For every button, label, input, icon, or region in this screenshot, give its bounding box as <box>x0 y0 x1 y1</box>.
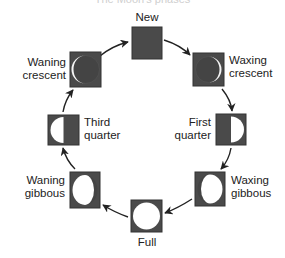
label-line: quarter <box>160 129 211 142</box>
arrow-third-quarter-to-waning-crescent <box>63 90 73 112</box>
label-line: Waxing <box>229 54 272 67</box>
label-line: gibbous <box>231 187 271 200</box>
waning-crescent-moon-icon <box>72 56 100 84</box>
label-line: Waxing <box>231 174 271 187</box>
label-line: Waning <box>10 174 65 187</box>
label-line: crescent <box>10 69 66 82</box>
arrow-waxing-crescent-to-first-quarter <box>222 89 232 111</box>
full-moon-icon <box>133 203 160 230</box>
phase-third-quarter <box>48 115 79 145</box>
label-waning-gibbous: Waning gibbous <box>10 174 65 200</box>
label-third-quarter: Third quarter <box>84 116 120 142</box>
label-new: New <box>122 11 172 24</box>
phase-waxing-crescent <box>193 53 224 86</box>
phase-waxing-gibbous <box>195 172 225 206</box>
arrow-full-to-waning-gibbous <box>103 205 128 217</box>
waxing-gibbous-moon-icon <box>198 175 223 204</box>
waning-gibbous-moon-icon <box>73 175 98 205</box>
arrow-first-quarter-to-waxing-gibbous <box>221 148 231 169</box>
label-full: Full <box>122 236 172 249</box>
new-moon-icon <box>132 27 162 59</box>
phase-full <box>131 200 162 232</box>
label-line: crescent <box>229 67 272 80</box>
label-first-quarter: First quarter <box>160 116 211 142</box>
waxing-crescent-moon-icon <box>196 57 222 83</box>
label-line: First <box>160 116 211 129</box>
label-line: quarter <box>84 129 120 142</box>
label-full-text: Full <box>138 236 157 248</box>
label-waning-crescent: Waning crescent <box>10 56 66 82</box>
phase-new <box>132 27 162 59</box>
label-waxing-crescent: Waxing crescent <box>229 54 272 80</box>
label-line: Third <box>84 116 120 129</box>
arrow-waning-crescent-to-new <box>100 42 128 56</box>
arrow-new-to-waxing-crescent <box>164 40 190 55</box>
phase-waning-gibbous <box>70 172 100 208</box>
moon-phase-cycle-diagram <box>0 0 285 258</box>
arrow-waning-gibbous-to-third-quarter <box>63 148 75 169</box>
phase-waning-crescent <box>70 52 101 87</box>
label-waxing-gibbous: Waxing gibbous <box>231 174 271 200</box>
label-line: gibbous <box>10 187 65 200</box>
label-new-text: New <box>135 11 158 23</box>
label-line: Waning <box>10 56 66 69</box>
phase-first-quarter <box>216 114 246 145</box>
arrow-waxing-gibbous-to-full <box>165 199 192 213</box>
